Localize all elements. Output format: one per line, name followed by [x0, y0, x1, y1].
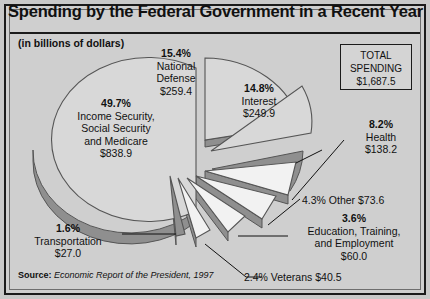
label-defense-name1: National — [157, 60, 196, 72]
label-health-pct: 8.2% — [369, 118, 393, 130]
label-income-value: $838.9 — [100, 147, 132, 159]
label-income-name3: and Medicare — [84, 135, 148, 147]
label-education-training: 3.6% Education, Training, and Employment… — [288, 212, 420, 262]
label-national-defense: 15.4% National Defense $259.4 — [140, 47, 212, 97]
label-interest-value: $249.9 — [243, 107, 275, 119]
label-defense-pct: 15.4% — [161, 47, 191, 59]
label-transportation-pct: 1.6% — [56, 222, 80, 234]
label-veterans-text: 2.4% Veterans $40.5 — [244, 271, 342, 283]
label-health-value: $138.2 — [365, 143, 397, 155]
label-interest-pct: 14.8% — [244, 82, 274, 94]
label-transportation: 1.6% Transportation $27.0 — [14, 222, 122, 260]
label-education-pct: 3.6% — [342, 212, 366, 224]
label-interest: 14.8% Interest $249.9 — [221, 82, 297, 120]
total-spending-line1: TOTAL — [341, 49, 411, 62]
label-transportation-name1: Transportation — [34, 235, 101, 247]
total-spending-line2: SPENDING — [341, 62, 411, 75]
source-note: Source: Economic Report of the President… — [18, 270, 214, 280]
label-health: 8.2% Health $138.2 — [344, 118, 418, 156]
pie-chart-figure: Spending by the Federal Government in a … — [0, 0, 430, 299]
label-education-name2: and Employment — [315, 237, 394, 249]
total-spending-value: $1,687.5 — [341, 75, 411, 88]
source-text: Economic Report of the President, 1997 — [54, 270, 214, 280]
label-defense-name2: Defense — [156, 72, 195, 84]
source-label: Source: — [18, 270, 52, 280]
label-transportation-value: $27.0 — [55, 247, 81, 259]
label-income-name2: Social Security — [81, 122, 150, 134]
label-veterans: 2.4% Veterans $40.5 — [244, 271, 384, 284]
label-other: 4.3% Other $73.6 — [302, 194, 420, 207]
label-interest-name1: Interest — [241, 95, 276, 107]
label-income-pct: 49.7% — [101, 97, 131, 109]
label-defense-value: $259.4 — [160, 85, 192, 97]
label-education-value: $60.0 — [341, 250, 367, 262]
total-spending-box: TOTAL SPENDING $1,687.5 — [340, 44, 412, 90]
label-income-security: 49.7% Income Security, Social Security a… — [48, 97, 184, 160]
label-other-text: 4.3% Other $73.6 — [302, 194, 384, 206]
label-health-name1: Health — [366, 131, 396, 143]
label-income-name1: Income Security, — [77, 110, 154, 122]
label-education-name1: Education, Training, — [308, 225, 401, 237]
